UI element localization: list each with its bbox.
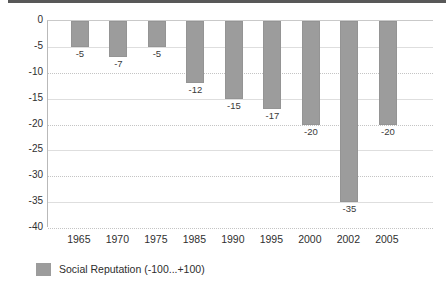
y-axis-tick-label: -35 [3,196,43,206]
bar [71,21,89,47]
y-axis-tick-label: -10 [3,67,43,77]
x-axis-tick-label: 1990 [221,233,244,245]
x-axis-tick-label: 2000 [298,233,321,245]
bar-value-label: -5 [153,49,161,59]
x-axis-tick-label: 1970 [106,233,129,245]
x-axis-tick-label: 1985 [183,233,206,245]
plot-area: -5-7-5-12-15-17-20-35-20 [47,20,433,227]
bar [109,21,127,57]
y-axis-tick-label: -25 [3,144,43,154]
legend-color-swatch [36,263,51,276]
bar-value-label: -20 [304,127,318,137]
bar-value-label: -17 [265,111,279,121]
gridline [48,125,433,126]
y-axis-tick-label: -15 [3,93,43,103]
x-axis-tick-label: 1995 [260,233,283,245]
bar-value-label: -7 [114,59,122,69]
bar [340,21,358,202]
y-axis-tick-label: -20 [3,119,43,129]
bar [148,21,166,47]
x-axis: 196519701975198519901995200020022005 [47,233,433,251]
y-axis-tick-label: -5 [3,41,43,51]
x-axis-tick-label: 2002 [337,233,360,245]
gridline [48,150,433,151]
bar [263,21,281,109]
bar-value-label: -35 [342,204,356,214]
x-axis-tick-label: 1975 [144,233,167,245]
legend-label: Social Reputation (-100...+100) [59,263,205,276]
bar-chart: 0-5-10-15-20-25-30-35-40 -5-7-5-12-15-17… [0,8,446,254]
bar [186,21,204,83]
gridline [48,176,433,177]
gridline [48,228,433,229]
bar-value-label: -15 [227,101,241,111]
bar [379,21,397,125]
bar [225,21,243,99]
bar-value-label: -12 [188,85,202,95]
y-axis-tick-label: 0 [3,15,43,25]
x-axis-tick-label: 2005 [375,233,398,245]
chart-legend: Social Reputation (-100...+100) [36,263,205,276]
gridline [48,202,433,203]
y-axis-tick-label: -30 [3,170,43,180]
x-axis-tick-label: 1965 [67,233,90,245]
top-divider-rule [8,0,446,3]
y-axis-tick-label: -40 [3,222,43,232]
bar-value-label: -5 [76,49,84,59]
bar-value-label: -20 [381,127,395,137]
y-axis: 0-5-10-15-20-25-30-35-40 [0,20,43,227]
bar [302,21,320,125]
